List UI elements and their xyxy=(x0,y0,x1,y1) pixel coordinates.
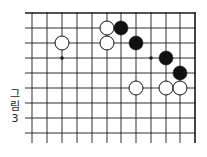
go-board-diagram xyxy=(0,0,207,157)
star-point xyxy=(149,56,153,60)
star-point xyxy=(60,56,64,60)
white-stone xyxy=(55,36,69,50)
black-stone xyxy=(129,36,143,50)
white-stone xyxy=(100,36,114,50)
figure-caption: 그 림 3 xyxy=(7,89,23,125)
black-stone xyxy=(159,51,173,65)
white-stone xyxy=(129,81,143,95)
white-stone xyxy=(173,81,187,95)
black-stone xyxy=(114,21,128,35)
caption-char: 3 xyxy=(7,113,23,125)
white-stone xyxy=(100,21,114,35)
white-stone xyxy=(159,81,173,95)
black-stone xyxy=(173,66,187,80)
